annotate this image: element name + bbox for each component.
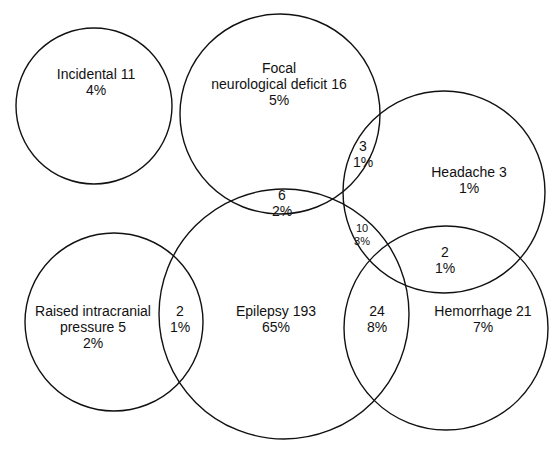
- overlap-percent: 2%: [272, 203, 292, 219]
- label-raised: Raised intracranial pressure 5 2%: [35, 303, 151, 351]
- set-percent: 4%: [57, 82, 135, 98]
- overlap-count: 24: [367, 303, 387, 319]
- set-label-line2: neurological deficit 16: [211, 76, 346, 92]
- label-headache-hemorrhage: 2 1%: [435, 244, 455, 276]
- label-headache: Headache 3 1%: [431, 164, 507, 196]
- set-label: Headache 3: [431, 164, 507, 180]
- set-label: Epilepsy 193: [236, 303, 316, 319]
- overlap-percent: 1%: [435, 260, 455, 276]
- circle-incidental: [16, 28, 172, 184]
- overlap-count: 2: [435, 244, 455, 260]
- label-focal-headache: 3 1%: [353, 138, 373, 170]
- set-label-line1: Focal: [211, 60, 346, 76]
- overlap-percent: 3%: [354, 235, 370, 248]
- overlap-count: 6: [272, 187, 292, 203]
- circle-focal: [180, 14, 380, 214]
- overlap-count: 10: [354, 222, 370, 235]
- overlap-percent: 1%: [170, 319, 190, 335]
- label-focal: Focal neurological deficit 16 5%: [211, 60, 346, 108]
- label-focal-epilepsy: 6 2%: [272, 187, 292, 219]
- set-percent: 65%: [236, 319, 316, 335]
- label-epilepsy-headache: 10 3%: [354, 222, 370, 248]
- overlap-percent: 1%: [353, 154, 373, 170]
- set-percent: 7%: [434, 319, 531, 335]
- set-percent: 2%: [35, 335, 151, 351]
- label-raised-epilepsy: 2 1%: [170, 303, 190, 335]
- set-label-line2: pressure 5: [35, 319, 151, 335]
- set-label: Incidental 11: [57, 66, 135, 82]
- overlap-count: 3: [353, 138, 373, 154]
- label-incidental: Incidental 11 4%: [57, 66, 135, 98]
- set-percent: 5%: [211, 92, 346, 108]
- overlap-count: 2: [170, 303, 190, 319]
- overlap-percent: 8%: [367, 319, 387, 335]
- set-label-line1: Raised intracranial: [35, 303, 151, 319]
- set-label: Hemorrhage 21: [434, 303, 531, 319]
- label-hemorrhage: Hemorrhage 21 7%: [434, 303, 531, 335]
- label-epilepsy: Epilepsy 193 65%: [236, 303, 316, 335]
- set-percent: 1%: [431, 180, 507, 196]
- label-epilepsy-hemorrhage: 24 8%: [367, 303, 387, 335]
